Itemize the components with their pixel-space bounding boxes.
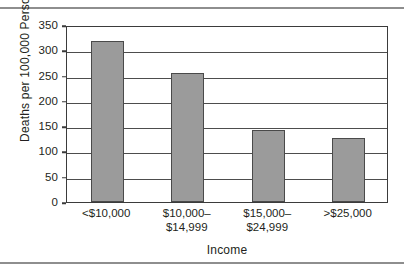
x-tick-label-line: $24,999 bbox=[243, 221, 291, 235]
x-tick-label: <$10,000 bbox=[82, 207, 130, 221]
x-axis-title: Income bbox=[66, 243, 388, 257]
x-tick-label-line: >$25,000 bbox=[324, 207, 372, 221]
x-tick-label-line: $15,000– bbox=[243, 207, 291, 221]
bar bbox=[332, 138, 365, 202]
x-tick-label-line: $14,999 bbox=[163, 221, 211, 235]
bar bbox=[252, 130, 285, 202]
x-tick-label: $10,000–$14,999 bbox=[163, 207, 211, 234]
figure-top-rule bbox=[0, 7, 404, 9]
bar-series bbox=[67, 27, 387, 202]
x-tick-label: $15,000–$24,999 bbox=[243, 207, 291, 234]
x-tick-label-line: $10,000– bbox=[163, 207, 211, 221]
chart-figure: Deaths per 100,000 Persons 0501001502002… bbox=[0, 0, 404, 271]
bar bbox=[91, 41, 124, 202]
x-tick-label: >$25,000 bbox=[324, 207, 372, 221]
y-axis-tick-marks bbox=[0, 26, 66, 203]
bar bbox=[171, 73, 204, 202]
x-tick-label-line: <$10,000 bbox=[82, 207, 130, 221]
plot-area bbox=[66, 26, 388, 203]
figure-bottom-rule bbox=[0, 262, 404, 264]
